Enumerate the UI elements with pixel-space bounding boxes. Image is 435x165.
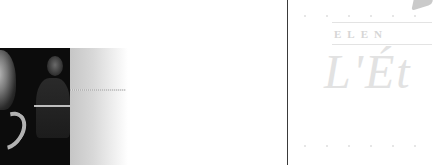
portrait-photo — [0, 48, 70, 165]
watermark-caps-text: ELEN — [334, 28, 388, 40]
man-face-shape — [0, 50, 16, 110]
woman-body-shape — [36, 78, 70, 138]
watermark-rule-top — [332, 22, 432, 23]
hand-shape — [0, 105, 33, 157]
ornament-icon — [411, 0, 434, 11]
fade-streak — [70, 89, 126, 91]
right-panel: ELEN L'Ét — [287, 0, 428, 165]
dotted-row — [294, 12, 428, 20]
photo-fade-gradient — [70, 48, 128, 165]
watermark-script-text: L'Ét — [324, 44, 412, 99]
dotted-row — [294, 142, 428, 150]
woman-head-shape — [47, 56, 63, 76]
light-streak — [34, 105, 70, 107]
